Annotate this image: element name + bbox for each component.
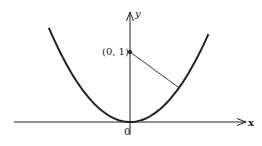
y-axis-label: y [134,8,141,19]
parabola-diagram: (0, 1) y x 0 [0,0,262,146]
distance-segment [130,52,179,88]
point-label: (0, 1) [102,46,129,57]
x-axis-label: x [248,117,255,128]
parabola-curve [49,28,209,122]
origin-label: 0 [124,126,130,137]
